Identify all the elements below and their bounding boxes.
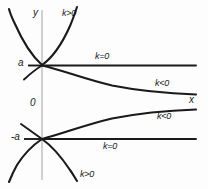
- value-label-minus-a: -a: [11, 132, 20, 142]
- curve-k-negative-lower: [42, 110, 196, 140]
- curve-label-k-zero-top: k=0: [95, 52, 109, 61]
- curve-label-k-zero-bottom: k=0: [103, 142, 117, 151]
- curve-k-positive-lower-left: [9, 139, 42, 182]
- x-axis-label: x: [189, 95, 194, 105]
- curve-label-k-negative-upper: k<0: [155, 79, 169, 88]
- curve-k-positive-lower-right: [42, 139, 77, 181]
- curve-k-negative-upper-left-stub: [24, 66, 42, 80]
- value-label-a: a: [18, 58, 23, 68]
- curve-k-negative-upper: [42, 66, 196, 95]
- curve-label-k-positive-top: k>0: [62, 9, 76, 18]
- origin-label: 0: [30, 98, 35, 108]
- curve-label-k-negative-lower: k<0: [157, 112, 171, 121]
- curve-k-negative-lower-left-stub: [21, 124, 42, 139]
- figure-container: y x 0 a -a k>0 k=0 k<0 k<0 k=0 k>0: [0, 0, 208, 189]
- y-axis-label: y: [33, 8, 38, 18]
- curve-plot-svg: [0, 0, 208, 189]
- curve-label-k-positive-bottom: k>0: [80, 170, 94, 179]
